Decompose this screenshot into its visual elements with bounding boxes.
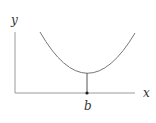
parabola-diagram: y x b (0, 0, 156, 123)
b-point-marker (85, 91, 88, 94)
b-label: b (84, 99, 92, 113)
x-axis-label: x (143, 86, 150, 100)
diagram: y x b (0, 0, 156, 123)
y-axis-label: y (10, 13, 18, 27)
parabola-curve (40, 32, 135, 73)
